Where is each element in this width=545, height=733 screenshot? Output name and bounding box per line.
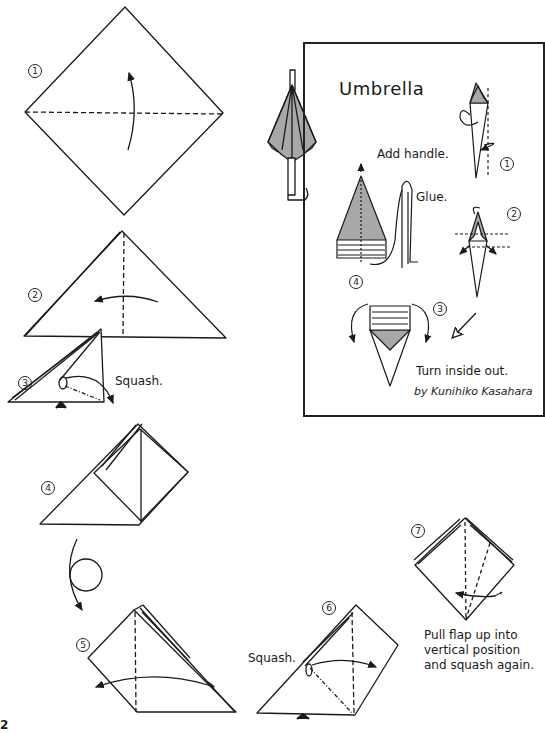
step7-figure (414, 518, 514, 620)
page-number: 2 (0, 718, 8, 732)
step-marker-3: 3 (18, 376, 32, 390)
step4-figure (40, 424, 188, 525)
panel-step-marker-1: 1 (500, 157, 514, 171)
panel-step-marker-2: 2 (507, 207, 521, 221)
step-marker-4: 4 (41, 481, 55, 495)
add-handle-caption: Add handle. (377, 147, 449, 161)
panel-title: Umbrella (339, 78, 424, 99)
step-marker-1: 1 (28, 64, 42, 78)
step3-figure (8, 329, 113, 408)
step6-caption: Squash. (248, 651, 296, 665)
step-marker-6: 6 (322, 601, 336, 615)
author-credit: by Kunihiko Kasahara (414, 385, 533, 399)
step7-caption-line1: Pull flap up into (424, 628, 517, 642)
step7-caption-line2: vertical position (424, 643, 520, 657)
step3-caption: Squash. (115, 374, 163, 388)
step5-figure (88, 605, 236, 712)
panel-step-marker-3: 3 (433, 302, 447, 316)
step-marker-7: 7 (411, 524, 425, 538)
step-marker-5: 5 (76, 638, 90, 652)
step1-diamond (25, 7, 223, 215)
panel-step-marker-4: 4 (349, 275, 363, 289)
step-marker-2: 2 (28, 288, 42, 302)
step7-caption-line3: and squash again. (424, 658, 534, 672)
turn-over-symbol (70, 539, 102, 610)
glue-caption: Glue. (416, 190, 447, 204)
turn-inside-out-caption: Turn inside out. (416, 364, 508, 378)
step2-triangle (24, 231, 226, 338)
